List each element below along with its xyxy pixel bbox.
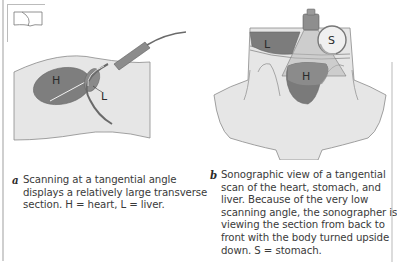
transducer-orientation-icon	[14, 12, 42, 26]
caption-line: front with the body turned upside	[221, 232, 393, 245]
illustration-panel-b: L S H	[200, 0, 395, 160]
caption-line: Scanning at a tangential angle	[23, 174, 193, 187]
caption-line: displays a relatively large transverse	[23, 187, 193, 200]
caption-letter-a: a	[12, 174, 19, 187]
caption-letter-b: b	[210, 169, 217, 182]
label-heart: H	[52, 74, 60, 87]
caption-line: viewing the section from back to	[221, 219, 393, 232]
sonographic-view-illustration: L S H	[200, 0, 395, 160]
label-liver: L	[101, 90, 108, 103]
figure-caption-b: b Sonographic view of a tangential scan …	[221, 169, 393, 257]
tangential-scan-illustration: H L	[0, 0, 200, 150]
caption-line: down. S = stomach.	[221, 245, 393, 258]
caption-line: Sonographic view of a tangential	[221, 169, 393, 182]
figure-caption-a: a Scanning at a tangential angle display…	[23, 174, 193, 212]
caption-line: section. H = heart, L = liver.	[23, 199, 193, 212]
label-stomach: S	[328, 34, 335, 47]
label-liver: L	[264, 38, 271, 51]
caption-line: liver. Because of the very low	[221, 194, 393, 207]
caption-line: scan of the heart, stomach, and	[221, 182, 393, 195]
illustration-panel-a: H L	[0, 0, 200, 150]
caption-line: scanning angle, the sonographer is	[221, 207, 393, 220]
label-heart: H	[302, 70, 310, 83]
ultrasound-probe-icon	[303, 9, 319, 30]
body-section	[14, 56, 150, 140]
